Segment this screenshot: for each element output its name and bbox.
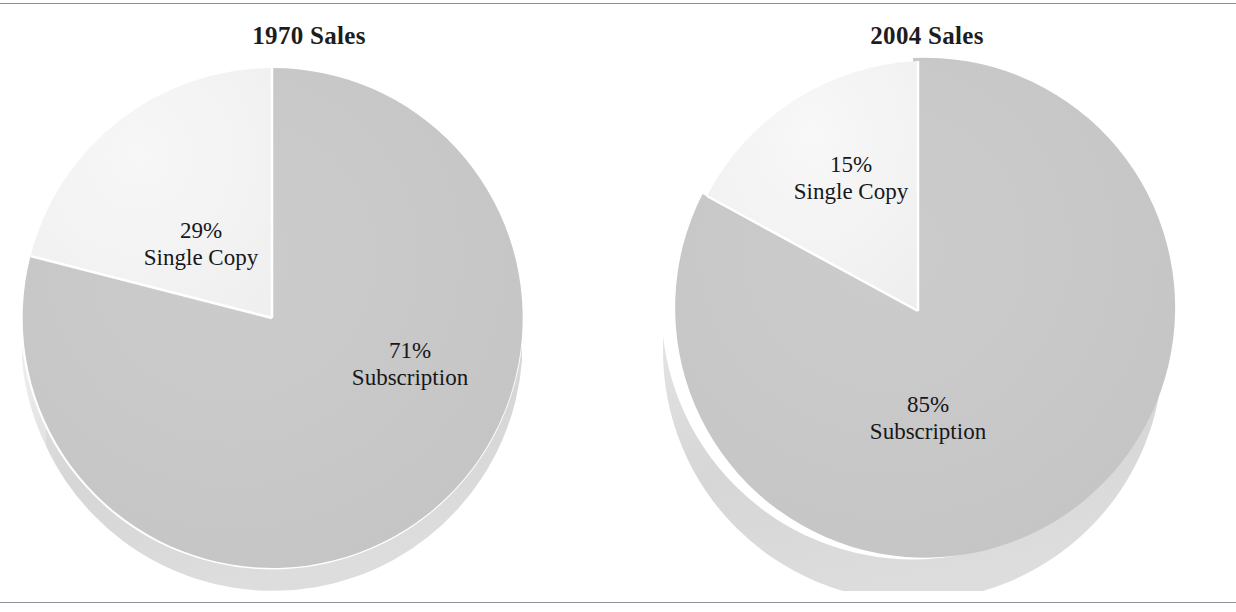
pie-slice-subscription-2004[interactable]	[675, 58, 1175, 558]
pie-chart-figure: 1970 Sales	[0, 0, 1236, 612]
pie-chart-2004	[618, 46, 1236, 591]
pie-chart-1970	[0, 46, 618, 591]
chart-panel-2004: 2004 Sales	[618, 0, 1236, 612]
chart-panel-1970: 1970 Sales	[0, 0, 618, 612]
